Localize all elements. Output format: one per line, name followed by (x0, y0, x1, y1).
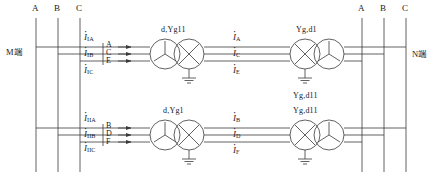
diagram-canvas: A B C A B C M端 N端 d,Yg11 Yg,d1 Yg,d11 d,… (0, 0, 437, 177)
current-symbol: I (233, 65, 236, 75)
top-left-arrows (118, 47, 131, 61)
current-subscript: IIA (87, 116, 96, 123)
xf-bottom-right-symbol (290, 120, 344, 164)
diagram-svg (0, 0, 437, 177)
xf-label-top-right-2: Yg,d11 (293, 92, 318, 100)
bus-label-left-c: C (76, 4, 82, 13)
current-subscript: IIC (87, 146, 96, 153)
right-busbars (362, 18, 406, 172)
left-busbars (36, 18, 80, 172)
current-subscript: IB (87, 51, 93, 58)
bottom-right-taps (344, 128, 406, 142)
current-symbol: I (84, 48, 87, 58)
current-label-iic: IIIC (84, 144, 96, 154)
bottom-left-arrows (118, 128, 131, 142)
bus-label-left-a: A (32, 4, 39, 13)
current-symbol: I (84, 143, 87, 153)
xf-bottom-left-symbol (150, 120, 204, 164)
bottom-middle-lines (204, 128, 290, 142)
current-subscript: IA (87, 35, 94, 42)
current-subscript: A (236, 35, 241, 42)
terminal-label-n: N端 (412, 50, 427, 59)
bus-label-right-a: A (358, 4, 365, 13)
current-symbol: I (233, 145, 236, 155)
current-subscript: IC (87, 68, 93, 75)
phase-mark-bottom-f: F (106, 138, 110, 146)
current-label-ic: IIC (84, 66, 93, 76)
current-symbol: I (233, 48, 236, 58)
phase-mark-top-e: E (106, 57, 111, 65)
xf-top-right-symbol (290, 39, 344, 83)
current-subscript: B (236, 116, 240, 123)
xf-label-top-right: Yg,d1 (296, 26, 317, 34)
current-subscript: C (236, 51, 240, 58)
xf-top-left-symbol (150, 39, 204, 83)
xf-label-bottom-right: Yg,d11 (293, 107, 318, 115)
top-right-taps (344, 47, 406, 61)
current-subscript: IIB (87, 132, 96, 139)
current-symbol: I (84, 65, 87, 75)
bus-label-left-b: B (54, 4, 60, 13)
current-label-f: IF (233, 146, 240, 156)
xf-label-top-left: d,Yg11 (161, 26, 186, 34)
bus-label-right-b: B (380, 4, 386, 13)
terminal-label-m: M端 (6, 48, 23, 57)
bus-label-right-c: C (402, 4, 408, 13)
current-subscript: E (236, 68, 240, 75)
top-middle-lines (204, 47, 290, 61)
current-label-e: IE (233, 66, 240, 76)
current-subscript: F (236, 148, 240, 155)
xf-label-bottom-left: d,Yg1 (163, 107, 184, 115)
current-subscript: D (236, 132, 241, 139)
